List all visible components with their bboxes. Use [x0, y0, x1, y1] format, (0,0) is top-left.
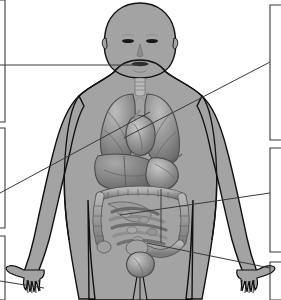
eye-right: [122, 39, 134, 43]
label-box-5[interactable]: [0, 128, 5, 228]
head: [102, 3, 177, 78]
label-box-2[interactable]: [270, 148, 281, 252]
anatomy-diagram-canvas: [0, 0, 281, 300]
hand-left: [237, 266, 275, 293]
bladder: [127, 252, 155, 277]
label-box-6[interactable]: [0, 236, 5, 300]
hand-right: [6, 266, 44, 293]
cecum: [97, 241, 111, 253]
heart: [126, 116, 155, 156]
label-box-1[interactable]: [270, 5, 281, 140]
eye-left: [146, 39, 158, 43]
label-box-4[interactable]: [0, 0, 5, 122]
anatomy-figure-svg: [0, 0, 281, 300]
